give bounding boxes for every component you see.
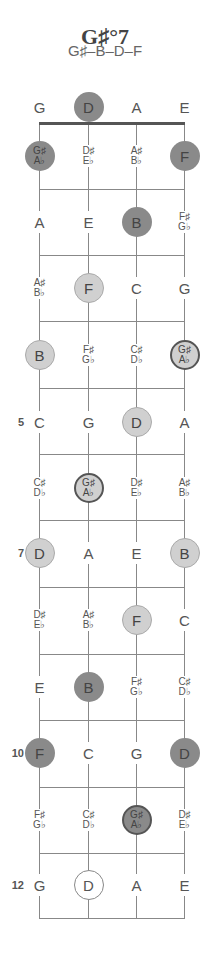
fret-number-10: 10: [8, 747, 24, 759]
note-label: D: [179, 746, 190, 761]
note-label: G: [179, 281, 191, 296]
fret-line-11: [39, 853, 185, 854]
fret-number-12: 12: [8, 879, 24, 891]
note-fret1-string-d: D♯E♭: [74, 145, 104, 167]
note-fret5-string-g: C: [25, 411, 55, 433]
note-enharmonic-label: D♭: [178, 687, 190, 697]
note-fret12-string-d: D: [74, 870, 104, 900]
note-fret3-string-a: C: [122, 277, 152, 299]
note-fret7-string-d: A: [74, 542, 104, 564]
note-label: D: [34, 546, 45, 561]
fret-line-10: [39, 787, 185, 788]
note-enharmonic-label: A♭: [179, 355, 191, 365]
note-fret8-string-e: C: [170, 609, 200, 631]
string-line-a: [136, 124, 137, 918]
note-label: D: [131, 415, 142, 430]
note-label: A: [34, 215, 44, 230]
note-enharmonic-label: A♭: [83, 488, 95, 498]
fret-line-1: [39, 189, 185, 190]
note-fret4-string-a: C♯D♭: [122, 344, 152, 366]
note-fret11-string-g: F♯G♭: [25, 809, 55, 831]
note-fret2-string-g: A: [25, 211, 55, 233]
note-fret6-string-d: G♯A♭: [74, 473, 104, 503]
note-label: D: [83, 100, 94, 115]
fret-line-4: [39, 388, 185, 389]
note-fret12-string-a: A: [122, 874, 152, 896]
note-fret10-string-a: G: [122, 742, 152, 764]
fret-line-7: [39, 587, 185, 588]
note-label: F: [132, 613, 141, 628]
note-fret1-string-a: A♯B♭: [122, 145, 152, 167]
note-label: B: [83, 680, 93, 695]
note-fret6-string-g: C♯D♭: [25, 477, 55, 499]
note-fret10-string-d: C: [74, 742, 104, 764]
note-label: E: [83, 215, 93, 230]
note-label: F: [180, 149, 189, 164]
note-enharmonic-label: D♭: [130, 355, 142, 365]
note-fret3-string-d: F: [74, 273, 104, 303]
note-fret6-string-e: A♯B♭: [170, 477, 200, 499]
note-fret7-string-e: B: [170, 538, 200, 568]
note-fret9-string-d: B: [74, 672, 104, 702]
note-label: F: [84, 281, 93, 296]
note-fret11-string-d: C♯D♭: [74, 809, 104, 831]
note-label: B: [131, 215, 141, 230]
string-line-d: [88, 124, 89, 918]
note-fret7-string-g: D: [25, 538, 55, 568]
note-enharmonic-label: G♭: [33, 820, 46, 830]
fret-line-2: [39, 255, 185, 256]
string-line-g: [39, 124, 40, 918]
note-label: G: [34, 878, 46, 893]
note-label: F: [35, 746, 44, 761]
fret-line-5: [39, 454, 185, 455]
note-fret11-string-a: G♯A♭: [122, 805, 152, 835]
note-label: E: [34, 680, 44, 695]
fret-line-6: [39, 520, 185, 521]
fret-line-3: [39, 321, 185, 322]
note-fret0-string-a: A: [122, 96, 152, 118]
note-fret0-string-d: D: [74, 92, 104, 122]
note-label: C: [34, 415, 45, 430]
note-fret9-string-a: F♯G♭: [122, 676, 152, 698]
note-enharmonic-label: A♭: [34, 156, 46, 166]
note-enharmonic-label: E♭: [34, 620, 46, 630]
note-enharmonic-label: E♭: [131, 488, 143, 498]
note-label: C: [179, 613, 190, 628]
note-fret4-string-d: F♯G♭: [74, 344, 104, 366]
note-fret5-string-d: G: [74, 411, 104, 433]
note-fret4-string-e: G♯A♭: [170, 340, 200, 370]
note-enharmonic-label: G♭: [178, 222, 191, 232]
note-fret9-string-g: E: [25, 676, 55, 698]
note-label: G: [34, 100, 46, 115]
note-fret7-string-a: E: [122, 542, 152, 564]
fret-line-9: [39, 720, 185, 721]
note-fret8-string-a: F: [122, 605, 152, 635]
note-label: E: [179, 878, 189, 893]
note-label: E: [131, 546, 141, 561]
note-label: A: [179, 415, 189, 430]
note-enharmonic-label: G♭: [82, 355, 95, 365]
note-fret5-string-a: D: [122, 407, 152, 437]
fret-line-12: [39, 918, 185, 919]
fret-number-5: 5: [8, 416, 24, 428]
note-enharmonic-label: G♭: [130, 687, 143, 697]
note-fret0-string-g: G: [25, 96, 55, 118]
note-fret5-string-e: A: [170, 411, 200, 433]
note-label: G: [131, 746, 143, 761]
note-label: B: [179, 546, 189, 561]
note-label: A: [131, 878, 141, 893]
note-enharmonic-label: D♭: [82, 820, 94, 830]
note-fret8-string-d: A♯B♭: [74, 609, 104, 631]
note-fret1-string-e: F: [170, 141, 200, 171]
note-label: A: [83, 546, 93, 561]
note-fret3-string-g: A♯B♭: [25, 277, 55, 299]
note-enharmonic-label: E♭: [179, 820, 191, 830]
note-fret0-string-e: E: [170, 96, 200, 118]
fret-number-7: 7: [8, 547, 24, 559]
note-fret3-string-e: G: [170, 277, 200, 299]
note-label: A: [131, 100, 141, 115]
note-fret2-string-e: F♯G♭: [170, 211, 200, 233]
note-fret11-string-e: D♯E♭: [170, 809, 200, 831]
note-label: G: [83, 415, 95, 430]
note-enharmonic-label: B♭: [83, 620, 95, 630]
